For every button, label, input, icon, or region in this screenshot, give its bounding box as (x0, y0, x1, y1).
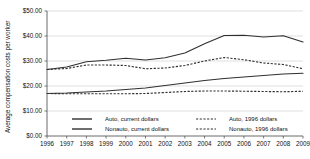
x-tick-label: 2002 (158, 140, 173, 147)
y-tick-label: $0.00 (26, 132, 42, 139)
x-tick-label: 2008 (276, 140, 291, 147)
x-tick-label: 2004 (198, 140, 213, 147)
x-tick-label: 2003 (178, 140, 193, 147)
y-tick-label: $30.00 (23, 57, 43, 64)
y-axis-title: Average compensation costs per worker (4, 21, 12, 133)
legend-label: Nonauto, current dollars (105, 126, 169, 132)
x-tick-label: 1999 (99, 140, 114, 147)
x-tick-label: 2001 (138, 140, 153, 147)
x-tick-label: 2007 (257, 140, 272, 147)
chart-background (0, 0, 310, 159)
x-tick-label: 1996 (40, 140, 55, 147)
y-tick-label: $20.00 (23, 82, 43, 89)
legend-label: Auto, current dollars (105, 116, 159, 122)
y-tick-label: $50.00 (23, 7, 43, 14)
x-tick-label: 2006 (237, 140, 252, 147)
x-tick-label: 2000 (119, 140, 134, 147)
x-tick-label: 2005 (217, 140, 232, 147)
x-tick-label: 2009 (296, 140, 310, 147)
line-chart: Average compensation costs per worker $0… (0, 0, 310, 159)
x-tick-label: 1997 (60, 140, 75, 147)
legend-label: Nonauto, 1996 dollars (229, 126, 288, 132)
legend-label: Auto, 1996 dollars (229, 116, 277, 122)
y-tick-label: $10.00 (23, 107, 43, 114)
x-tick-label: 1998 (79, 140, 94, 147)
y-tick-label: $40.00 (23, 32, 43, 39)
chart-container: Average compensation costs per worker $0… (0, 0, 310, 159)
